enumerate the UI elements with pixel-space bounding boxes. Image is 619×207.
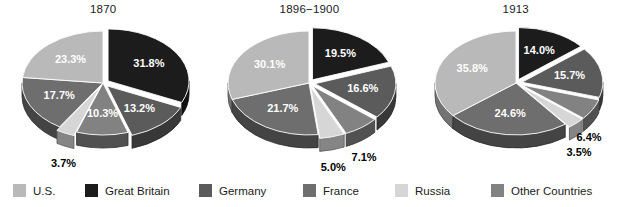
chart-title: 1913 xyxy=(413,3,619,15)
legend-item-russia[interactable]: Russia xyxy=(395,184,450,197)
slice-label: 24.6% xyxy=(494,107,525,119)
legend-swatch-icon xyxy=(395,184,408,197)
slice-label: 35.8% xyxy=(456,62,487,74)
legend-swatch-icon xyxy=(303,184,316,197)
slice-label: 7.1% xyxy=(352,151,377,163)
legend-swatch-icon xyxy=(491,184,504,197)
slice-label: 5.0% xyxy=(321,161,346,172)
legend-label: Other Countries xyxy=(511,185,592,197)
slice-label: 23.3% xyxy=(55,53,86,65)
legend-label: Germany xyxy=(219,185,266,197)
legend-label: U.S. xyxy=(33,185,55,197)
pie-chart-figure: 187031.8%13.2%10.3%3.7%17.7%23.3%1896−19… xyxy=(0,0,619,207)
legend-item-france[interactable]: France xyxy=(303,184,359,197)
legend-swatch-icon xyxy=(13,184,26,197)
legend-swatch-icon xyxy=(199,184,212,197)
slice-label: 31.8% xyxy=(133,57,164,69)
chart-title: 1870 xyxy=(0,3,206,15)
pie-chart-1896-1900: 1896−190019.5%16.6%7.1%5.0%21.7%30.1% xyxy=(206,0,412,172)
slice-label: 19.5% xyxy=(325,47,356,59)
pie-chart-1913: 191314.0%15.7%6.4%3.5%24.6%35.8% xyxy=(413,0,619,172)
slice-label: 6.4% xyxy=(576,131,601,143)
pie-chart-1870: 187031.8%13.2%10.3%3.7%17.7%23.3% xyxy=(0,0,206,172)
legend-item-u-s-[interactable]: U.S. xyxy=(13,184,55,197)
pie-svg: 19.5%16.6%7.1%5.0%21.7%30.1% xyxy=(206,17,412,172)
slice-label: 3.7% xyxy=(51,157,76,169)
legend-item-germany[interactable]: Germany xyxy=(199,184,266,197)
legend-item-other-countries[interactable]: Other Countries xyxy=(491,184,592,197)
chart-title: 1896−1900 xyxy=(206,3,412,15)
slice-label: 3.5% xyxy=(566,146,591,158)
slice-label: 30.1% xyxy=(254,58,285,70)
legend-swatch-icon xyxy=(85,184,98,197)
slice-label: 16.6% xyxy=(347,82,378,94)
slice-label: 13.2% xyxy=(124,102,155,114)
slice-label: 21.7% xyxy=(267,102,298,114)
slice-label: 15.7% xyxy=(553,69,584,81)
slice-label: 10.3% xyxy=(87,107,118,119)
legend-label: France xyxy=(323,185,359,197)
pie-top-faces xyxy=(22,29,189,136)
chart-legend: U.S.Great BritainGermanyFranceRussiaOthe… xyxy=(0,174,619,207)
legend-label: Great Britain xyxy=(105,185,170,197)
charts-row: 187031.8%13.2%10.3%3.7%17.7%23.3%1896−19… xyxy=(0,0,619,172)
pie-svg: 14.0%15.7%6.4%3.5%24.6%35.8% xyxy=(413,17,619,172)
slice-label: 14.0% xyxy=(523,44,554,56)
slice-label: 17.7% xyxy=(44,89,75,101)
legend-item-great-britain[interactable]: Great Britain xyxy=(85,184,170,197)
legend-label: Russia xyxy=(415,185,450,197)
pie-svg: 31.8%13.2%10.3%3.7%17.7%23.3% xyxy=(0,17,206,172)
